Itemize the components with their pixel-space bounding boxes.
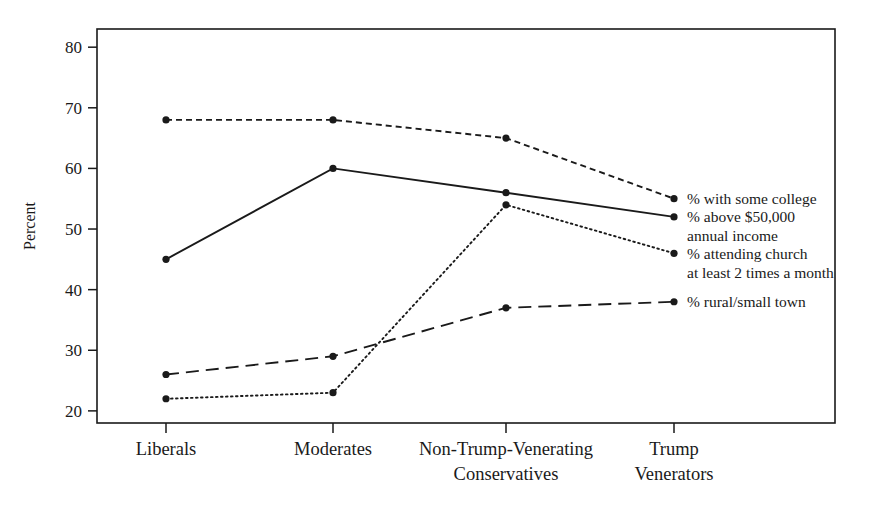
data-point-marker [670, 213, 677, 220]
y-tick-label: 30 [65, 341, 82, 360]
series-line [166, 302, 674, 375]
data-point-marker [502, 304, 509, 311]
x-tick-label: Conservatives [454, 464, 559, 484]
legend-label: % attending church [687, 245, 808, 262]
x-tick-label: Moderates [294, 439, 372, 459]
data-point-marker [670, 298, 677, 305]
data-point-marker [162, 395, 169, 402]
legend-label: % with some college [687, 190, 817, 207]
data-point-marker [162, 371, 169, 378]
y-tick-label: 60 [65, 159, 82, 178]
y-tick-label: 20 [65, 402, 82, 421]
plot-frame [97, 29, 835, 423]
series-line [166, 120, 674, 199]
y-tick-label: 40 [65, 281, 82, 300]
x-axis-ticks: LiberalsModeratesNon-Trump-VeneratingCon… [136, 423, 714, 484]
y-axis-ticks: 20304050607080 [65, 38, 97, 421]
data-point-marker [502, 189, 509, 196]
legend-label: at least 2 times a month [687, 264, 834, 281]
data-point-marker [162, 256, 169, 263]
y-tick-label: 50 [65, 220, 82, 239]
y-tick-label: 80 [65, 38, 82, 57]
data-point-marker [502, 201, 509, 208]
y-axis-title-text: Percent [21, 201, 38, 250]
legend-label: annual income [687, 227, 778, 244]
data-series-group [162, 116, 677, 402]
chart-container: 20304050607080 LiberalsModeratesNon-Trum… [0, 0, 869, 519]
data-point-marker [329, 353, 336, 360]
legend-label: % rural/small town [687, 293, 806, 310]
y-tick-label: 70 [65, 99, 82, 118]
series-line [166, 205, 674, 399]
data-point-marker [329, 165, 336, 172]
data-point-marker [329, 116, 336, 123]
x-tick-label: Trump [649, 439, 699, 459]
x-tick-label: Venerators [634, 464, 713, 484]
x-tick-label: Liberals [136, 439, 197, 459]
data-point-marker [502, 135, 509, 142]
x-tick-label: Non-Trump-Venerating [419, 439, 593, 459]
y-axis-title: Percent [21, 201, 38, 250]
series-line [166, 168, 674, 259]
legend-label: % above $50,000 [687, 208, 795, 225]
line-chart: 20304050607080 LiberalsModeratesNon-Trum… [0, 0, 869, 519]
chart-legend: % with some college% above $50,000annual… [687, 190, 834, 310]
data-point-marker [670, 195, 677, 202]
data-point-marker [329, 389, 336, 396]
data-point-marker [670, 250, 677, 257]
data-point-marker [162, 116, 169, 123]
